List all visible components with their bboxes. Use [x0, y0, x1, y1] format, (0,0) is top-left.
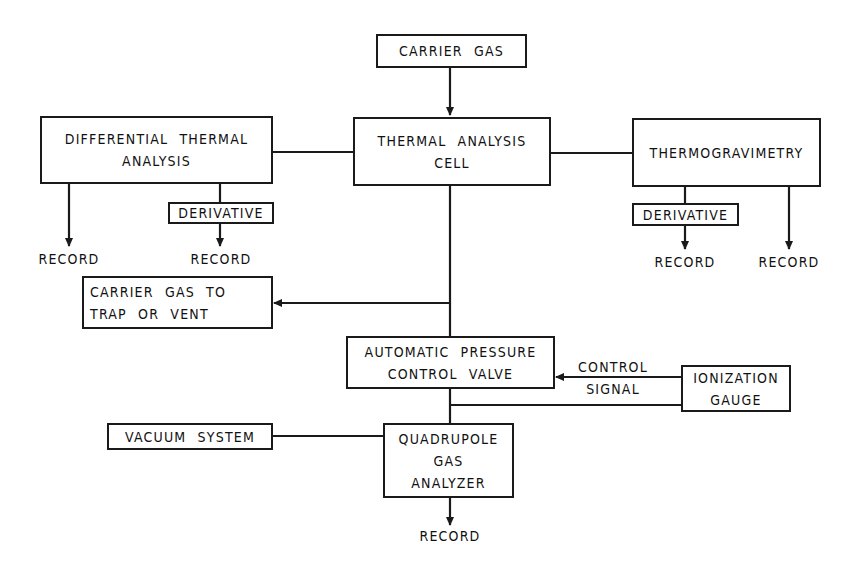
tg-derivative-box: DERIVATIVE: [632, 203, 739, 226]
carrier-gas-box: CARRIER GAS: [376, 34, 527, 68]
quadrupole-label-line3: ANALYZER: [411, 472, 485, 494]
valve-label-line2: CONTROL VALVE: [388, 363, 513, 385]
record-tg-derivative-label: RECORD: [652, 253, 718, 271]
valve-label-line1: AUTOMATIC PRESSURE: [365, 341, 537, 363]
gauge-label-line1: IONIZATION: [693, 367, 779, 389]
record-quadrupole-label: RECORD: [417, 527, 483, 545]
cell-label-line2: CELL: [434, 152, 470, 174]
vacuum-label: VACUUM SYSTEM: [125, 426, 255, 448]
control-signal-label-line1: CONTROL: [573, 358, 653, 376]
thermal-analysis-flow-diagram: CARRIER GAS DIFFERENTIAL THERMAL ANALYSI…: [0, 0, 857, 572]
tg-label: THERMOGRAVIMETRY: [650, 142, 804, 164]
tg-derivative-label: DERIVATIVE: [643, 204, 728, 226]
thermal-analysis-cell-box: THERMAL ANALYSIS CELL: [353, 117, 551, 186]
quadrupole-label-line2: GAS: [434, 450, 464, 472]
ionization-gauge-box: IONIZATION GAUGE: [681, 365, 791, 412]
thermogravimetry-box: THERMOGRAVIMETRY: [632, 118, 821, 187]
record-dta-derivative-label: RECORD: [188, 250, 254, 268]
quadrupole-gas-analyzer-box: QUADRUPOLE GAS ANALYZER: [383, 423, 514, 498]
automatic-pressure-control-valve-box: AUTOMATIC PRESSURE CONTROL VALVE: [346, 336, 555, 389]
dta-label-line2: ANALYSIS: [122, 150, 191, 172]
dta-derivative-label: DERIVATIVE: [178, 202, 263, 224]
record-tg-label: RECORD: [756, 253, 822, 271]
carrier-gas-trap-vent-box: CARRIER GAS TO TRAP OR VENT: [82, 276, 273, 329]
record-dta-label: RECORD: [36, 250, 102, 268]
trap-vent-label-line2: TRAP OR VENT: [90, 303, 209, 325]
trap-vent-label-line1: CARRIER GAS TO: [90, 281, 226, 303]
differential-thermal-analysis-box: DIFFERENTIAL THERMAL ANALYSIS: [40, 116, 273, 184]
control-signal-label-line2: SIGNAL: [573, 380, 653, 398]
dta-label-line1: DIFFERENTIAL THERMAL: [65, 128, 248, 150]
dta-derivative-box: DERIVATIVE: [168, 202, 274, 224]
carrier-gas-label: CARRIER GAS: [399, 40, 504, 62]
cell-label-line1: THERMAL ANALYSIS: [378, 130, 527, 152]
gauge-label-line2: GAUGE: [710, 389, 761, 411]
quadrupole-label-line1: QUADRUPOLE: [399, 428, 499, 450]
vacuum-system-box: VACUUM SYSTEM: [107, 423, 273, 450]
